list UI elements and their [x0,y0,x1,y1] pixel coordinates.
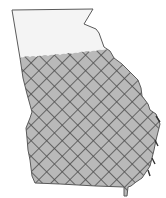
southern-region [0,49,166,198]
georgia-map [0,0,166,198]
northern-region [12,9,108,58]
map-canvas [0,0,166,198]
